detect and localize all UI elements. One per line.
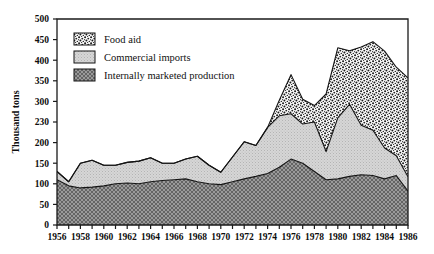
y-axis-tick-label: 230 [35,117,50,127]
legend-swatch-light-stipple [74,51,95,63]
y-axis-tick-label: 400 [35,56,50,66]
y-axis-title: Thousand tons [10,90,21,153]
x-axis-tick-label: 1956 [48,232,67,242]
x-axis-tick-label: 1960 [94,232,113,242]
y-axis-tick-label: 50 [40,200,50,210]
y-axis-tick-label: 0 [44,220,49,230]
legend-label: Food aid [104,34,142,45]
x-axis-tick-label: 1984 [375,232,394,242]
x-axis-tick-label: 1962 [118,232,137,242]
legend-swatch-coarse-speckle [74,33,95,45]
y-axis-tick-label: 200 [35,138,50,148]
legend-label: Commercial imports [104,52,191,63]
x-axis-tick-label: 1964 [141,232,160,242]
legend-label: Internally marketed production [104,70,235,81]
x-axis-tick-label: 1986 [399,232,418,242]
y-axis-tick-label: 150 [35,159,50,169]
x-axis-tick-label: 1982 [352,232,371,242]
chart-container: 050100150200230300350400450500 195619581… [0,0,434,254]
x-axis-tick-label: 1980 [328,232,347,242]
y-axis-tick-label: 450 [35,35,50,45]
x-axis-tick-label: 1978 [305,232,324,242]
y-axis-tick-label: 300 [35,97,50,107]
legend-swatch-dark-crosshatch [74,69,95,81]
x-axis-tick-label: 1968 [188,232,207,242]
x-axis-tick-label: 1972 [235,232,254,242]
y-axis-tick-label: 350 [35,76,50,86]
y-axis-tick-label: 500 [35,14,50,24]
y-axis: 050100150200230300350400450500 [35,14,57,230]
stacked-area-chart: 050100150200230300350400450500 195619581… [0,0,434,254]
x-axis-tick-label: 1976 [282,232,301,242]
x-axis-tick-label: 1974 [258,232,277,242]
x-axis: 1956195819601962196419661968197019721974… [48,225,418,242]
x-axis-tick-label: 1958 [71,232,90,242]
y-axis-tick-label: 100 [35,179,50,189]
x-axis-tick-label: 1966 [165,232,184,242]
x-axis-tick-label: 1970 [211,232,230,242]
